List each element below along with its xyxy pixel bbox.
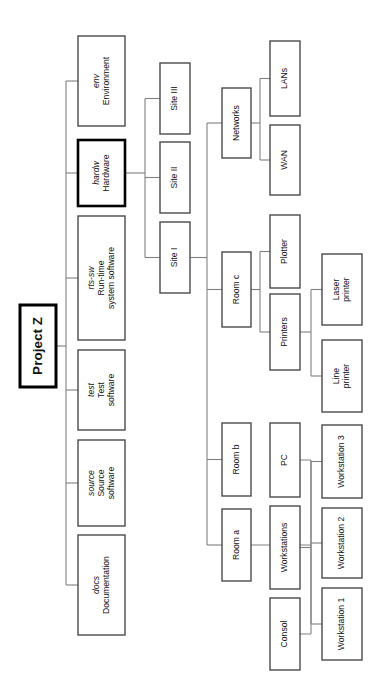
node-label: Test [96,382,106,398]
node-label: Printers [279,317,289,347]
node-label: Workstations [279,523,289,573]
node-label: LANs [279,68,289,89]
node-room-c[interactable]: Room c [222,252,251,327]
node-label: rts-sw [86,266,96,290]
node-line-pr[interactable]: Lineprinter [322,340,362,412]
node-label: Environment [101,56,111,105]
node-consol[interactable]: Consol [270,598,300,670]
node-workstations[interactable]: Workstations [270,506,300,589]
node-label: Consol [279,621,289,648]
node-networks[interactable]: Networks [222,88,251,158]
node-printers[interactable]: Printers [270,294,300,370]
node-label: PC [279,454,289,466]
node-label: Line [331,368,341,384]
node-label: Site III [169,86,179,110]
node-label: Source [96,469,106,496]
node-label: source [86,470,96,496]
node-label: Run-time [96,260,106,295]
project-breakdown-tree: Project ZdocsDocumentationsourceSourceso… [0,0,386,700]
node-project-z[interactable]: Project Z [20,305,56,387]
node-label: Project Z [30,317,45,375]
node-label: Workstation 1 [336,598,346,651]
node-site-1[interactable]: Site I [160,222,190,293]
node-label: software [106,374,116,407]
node-site-2[interactable]: Site II [160,142,190,213]
node-ws-3[interactable]: Workstation 3 [322,425,362,498]
node-laser[interactable]: Laserprinter [322,254,362,325]
node-site-3[interactable]: Site III [160,63,190,134]
node-pc[interactable]: PC [270,423,300,497]
node-label: software [106,467,116,500]
node-rts-sw[interactable]: rts-swRun-timesystem software [78,216,125,340]
node-label: printer [341,364,351,388]
node-label: Hardware [101,154,111,191]
node-label: Room a [231,530,241,560]
node-label: Workstation 3 [336,435,346,488]
node-hardw[interactable]: hardwHardware [78,140,125,206]
node-room-b[interactable]: Room b [222,423,251,496]
node-plotter[interactable]: Plotter [270,215,300,288]
node-label: hardw [91,161,101,185]
node-ws-2[interactable]: Workstation 2 [322,508,362,578]
node-label: WAN [279,150,289,170]
node-test[interactable]: testTestsoftware [78,350,125,430]
node-label: Site I [169,248,179,268]
node-label: Laser [331,279,341,301]
node-label: test [86,382,96,396]
node-lans[interactable]: LANs [270,41,300,116]
node-label: Site II [169,167,179,189]
node-room-a[interactable]: Room a [222,509,251,581]
diagram-canvas: Project ZdocsDocumentationsourceSourceso… [0,0,386,700]
node-label: env [91,73,101,88]
node-label: Room c [231,274,241,304]
node-label: Plotter [279,239,289,264]
node-source[interactable]: sourceSourcesoftware [78,440,125,526]
node-label: Networks [231,105,241,141]
node-docs[interactable]: docsDocumentation [78,535,125,635]
node-wan[interactable]: WAN [270,125,300,195]
node-ws-1[interactable]: Workstation 1 [322,588,362,660]
node-label: system software [106,247,116,309]
node-label: printer [341,277,351,301]
node-label: Room b [231,444,241,474]
node-env[interactable]: envEnvironment [78,36,125,126]
node-label: docs [91,575,101,594]
node-label: Documentation [101,556,111,614]
node-label: Workstation 2 [336,517,346,570]
